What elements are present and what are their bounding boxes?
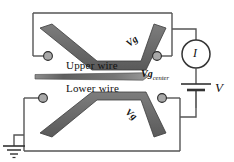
voltage-source [181,84,211,108]
upper-wire-label: Upper wire [66,59,118,71]
ground-lead [14,135,24,146]
ground-symbol [3,146,25,158]
battery-bottom-lead [180,108,196,117]
current-meter-label: I [193,46,197,61]
pad-upper-left [44,52,53,61]
center-gate-voltage-main: Vg [141,68,153,79]
figure-canvas: Upper wire Lower wire Vg Vg Vgcenter I V [0,0,234,162]
center-gate-voltage-sub: center [153,74,169,81]
pad-lower-left [39,94,48,103]
center-gate-bar [35,73,148,80]
circuit-schematic-svg [0,0,234,162]
lower-circuit-wiring [14,98,196,151]
pad-upper-right [153,52,162,61]
lower-split-gate [40,92,166,137]
voltage-source-label: V [215,80,223,96]
ammeter-top-lead [172,29,196,40]
pad-lower-right [158,94,167,103]
center-gate-voltage-label: Vgcenter [141,68,169,81]
lower-wire-label: Lower wire [66,82,119,94]
